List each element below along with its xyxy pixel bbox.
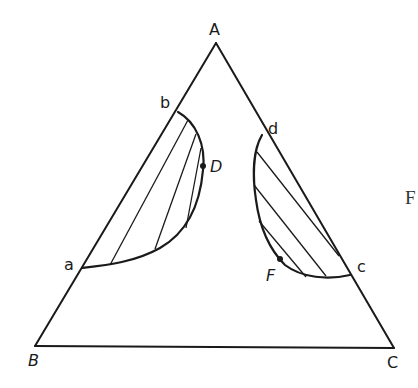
- label-point-d: d: [268, 119, 278, 138]
- cropped-edge-text: F: [405, 187, 416, 208]
- right-binodal-curve: [254, 135, 350, 278]
- edge-ab: [35, 43, 216, 346]
- left-binodal-curve: [82, 112, 204, 268]
- tie-line: [155, 134, 196, 249]
- tie-line: [186, 148, 201, 228]
- label-point-f: F: [266, 266, 276, 285]
- point-f-marker: [277, 256, 283, 262]
- point-d-marker: [200, 163, 206, 169]
- edge-bc: [35, 346, 394, 348]
- label-vertex-b: B: [28, 351, 39, 370]
- left-two-phase-region: [82, 112, 206, 268]
- label-vertex-a: A: [209, 20, 220, 39]
- label-point-c: c: [357, 257, 366, 276]
- label-vertex-c: C: [387, 353, 398, 372]
- triangle: [35, 43, 394, 348]
- edge-ac: [216, 43, 394, 348]
- right-two-phase-region: [254, 135, 350, 278]
- label-point-a: a: [64, 255, 74, 274]
- label-point-b: b: [160, 93, 170, 112]
- label-point-d-upper: D: [210, 157, 222, 176]
- tie-line: [254, 185, 326, 276]
- tie-line: [110, 120, 188, 265]
- ternary-phase-diagram: A B C a b c d D F F: [0, 0, 418, 388]
